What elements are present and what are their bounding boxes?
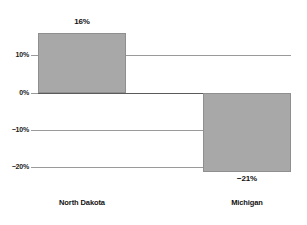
ytick-label-10: 10% [0, 51, 29, 59]
category-label-michigan: Michigan [203, 198, 291, 207]
tick-stub-0 [31, 93, 38, 94]
bar-chart: 10% 0% −10% −20% 16% −21% North Dakota M… [0, 0, 307, 225]
plot-area: 10% 0% −10% −20% 16% −21% [0, 0, 307, 190]
ytick-minus10: −10% [0, 126, 29, 134]
bar-michigan[interactable] [203, 93, 291, 172]
tick-stub-10 [31, 55, 38, 56]
category-label-north-dakota: North Dakota [38, 198, 126, 207]
bar-north-dakota[interactable] [38, 33, 126, 93]
ytick-label-minus20: −20% [0, 163, 29, 171]
tick-stub-minus20 [31, 167, 38, 168]
bar-value-north-dakota: 16% [38, 17, 126, 26]
tick-stub-minus10 [31, 130, 38, 131]
ytick-minus20: −20% [0, 163, 29, 171]
bar-value-michigan: −21% [203, 174, 291, 183]
ytick-label-minus10: −10% [0, 126, 29, 134]
ytick-0: 0% [0, 89, 29, 97]
ytick-label-0: 0% [0, 89, 29, 97]
ytick-10: 10% [0, 51, 29, 59]
